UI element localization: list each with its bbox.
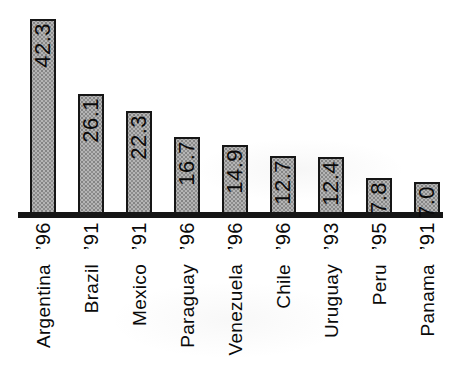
x-tick-year-paraguay: ’96 bbox=[177, 222, 197, 250]
bar-value-label-peru: 7.8 bbox=[368, 182, 390, 214]
bar-value-label-mexico: 22.3 bbox=[128, 115, 150, 160]
plot-area: 42.3’96Argentina26.1’91Brazil22.3’91Mexi… bbox=[0, 0, 457, 383]
x-tick-year-mexico: ’91 bbox=[129, 222, 149, 250]
x-tick-year-panama: ’91 bbox=[417, 222, 437, 250]
bar-peru: 7.8 bbox=[366, 178, 392, 214]
bar-value-label-chile: 12.7 bbox=[272, 160, 294, 205]
x-tick-country-panama: Panama bbox=[418, 264, 437, 337]
bar-value-label-paraguay: 16.7 bbox=[176, 141, 198, 186]
x-tick-year-brazil: ’91 bbox=[81, 222, 101, 250]
x-tick-country-chile: Chile bbox=[274, 264, 293, 309]
bar-value-label-brazil: 26.1 bbox=[80, 98, 102, 143]
bar-value-label-uruguay: 12.4 bbox=[320, 161, 342, 206]
bar-brazil: 26.1 bbox=[78, 94, 104, 214]
x-tick-country-brazil: Brazil bbox=[82, 264, 101, 313]
x-tick-country-mexico: Mexico bbox=[130, 264, 149, 326]
bar-value-label-panama: 7.0 bbox=[416, 186, 438, 218]
x-tick-country-venezuela: Venezuela bbox=[226, 264, 245, 355]
x-tick-year-peru: ’95 bbox=[369, 222, 389, 250]
x-tick-country-peru: Peru bbox=[370, 264, 389, 305]
bar-venezuela: 14.9 bbox=[222, 145, 248, 214]
bar-argentina: 42.3 bbox=[30, 19, 56, 214]
x-tick-country-paraguay: Paraguay bbox=[178, 264, 197, 348]
x-tick-year-uruguay: ’93 bbox=[321, 222, 341, 250]
x-tick-year-chile: ’96 bbox=[273, 222, 293, 250]
bar-value-label-argentina: 42.3 bbox=[32, 23, 54, 68]
x-tick-country-argentina: Argentina bbox=[34, 264, 53, 348]
bar-mexico: 22.3 bbox=[126, 111, 152, 214]
bar-panama: 7.0 bbox=[414, 182, 440, 214]
bar-paraguay: 16.7 bbox=[174, 137, 200, 214]
x-tick-year-argentina: ’96 bbox=[33, 222, 53, 250]
bar-chart-figure: 42.3’96Argentina26.1’91Brazil22.3’91Mexi… bbox=[0, 0, 457, 383]
bar-uruguay: 12.4 bbox=[318, 157, 344, 214]
bar-value-label-venezuela: 14.9 bbox=[224, 149, 246, 194]
x-tick-year-venezuela: ’96 bbox=[225, 222, 245, 250]
x-tick-country-uruguay: Uruguay bbox=[322, 264, 341, 338]
bar-chile: 12.7 bbox=[270, 156, 296, 214]
